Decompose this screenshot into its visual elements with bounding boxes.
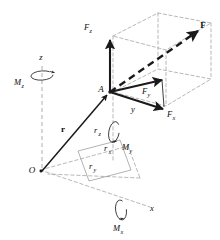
force-z-label: F z xyxy=(83,22,93,34)
distance-rz-label-main: r xyxy=(94,125,98,135)
distance-rx-label-sub: x xyxy=(107,148,111,155)
moment-z-label: M z xyxy=(13,77,25,89)
force-z-label-sub: z xyxy=(89,27,93,34)
moment-x-arrowhead xyxy=(119,219,124,220)
force-parallelogram-edge xyxy=(162,80,164,107)
point-o-marker xyxy=(40,170,43,173)
moment-y-arrow xyxy=(107,121,121,143)
point-a-marker xyxy=(108,90,111,93)
distance-rx-label-main: r xyxy=(104,143,108,153)
figure-root: z y x O A F r F z F y F x r z xyxy=(0,0,220,240)
construction-cube xyxy=(113,13,211,106)
distance-rz-label: r z xyxy=(94,125,101,137)
force-x-vector xyxy=(110,92,163,109)
moment-x-ellipse xyxy=(114,199,127,220)
distance-ry-label-main: r xyxy=(89,161,93,171)
point-a-label: A xyxy=(97,84,104,94)
distance-rx-label: r x xyxy=(104,143,111,155)
force-x-label-sub: x xyxy=(172,114,176,121)
force-resultant-label: F xyxy=(200,20,206,30)
distance-ry-label-sub: y xyxy=(92,166,96,173)
point-o-label: O xyxy=(29,165,36,175)
moment-y-label-sub: y xyxy=(129,147,133,154)
moment-y-label: M y xyxy=(121,142,133,154)
axis-y-label: y xyxy=(130,104,135,114)
axis-x-line xyxy=(40,170,150,207)
moment-z-arrowhead xyxy=(50,72,55,73)
force-y-vector xyxy=(110,80,162,92)
moment-z-label-sub: z xyxy=(21,82,25,89)
force-x-label: F x xyxy=(166,109,176,121)
force-y-line xyxy=(110,80,162,92)
position-vector-label: r xyxy=(61,124,65,134)
distance-ry-label: r y xyxy=(89,161,96,173)
moment-x-label: M x xyxy=(112,223,124,235)
axis-x-label: x xyxy=(149,203,154,213)
distance-rz-label-sub: z xyxy=(97,130,101,137)
force-y-label: F y xyxy=(141,86,151,98)
base-rect-edge-2 xyxy=(48,174,140,178)
moment-y-ellipse xyxy=(107,121,121,143)
vector-diagram: z y x O A F r F z F y F x r z xyxy=(0,0,220,240)
force-x-line xyxy=(110,92,163,109)
axis-z-label: z xyxy=(38,52,43,62)
moment-z-arrow xyxy=(31,70,55,81)
force-y-label-sub: y xyxy=(147,91,151,98)
moment-x-arrow xyxy=(114,199,127,220)
moment-x-label-sub: x xyxy=(120,228,124,235)
